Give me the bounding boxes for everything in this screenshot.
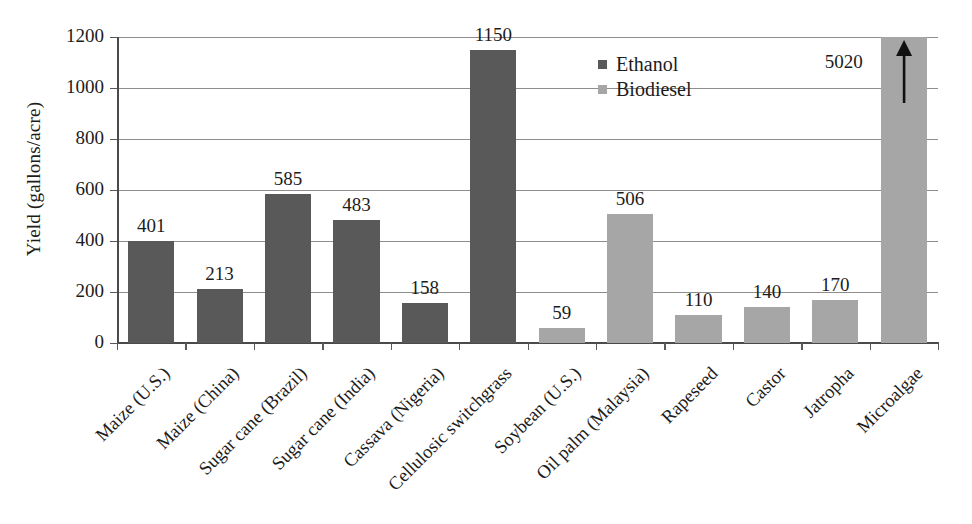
bar-chart: Yield (gallons/acre) 0200400600800100012… [0, 0, 972, 524]
x-axis-category-labels: Maize (U.S.)Maize (China)Sugar cane (Bra… [0, 0, 972, 524]
